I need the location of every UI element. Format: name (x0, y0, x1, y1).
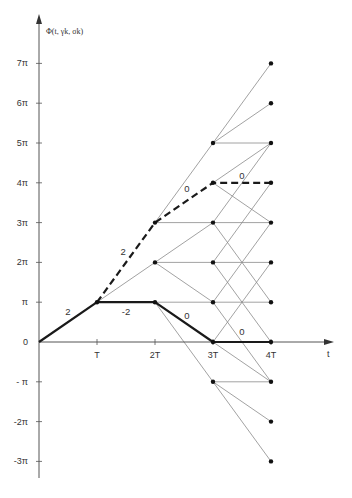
edge-weight-label: -2 (122, 306, 130, 317)
x-axis-title: t (327, 349, 330, 359)
trellis-node (211, 380, 215, 384)
trellis-node (269, 380, 273, 384)
trellis-node (211, 340, 215, 344)
trellis-edge (213, 382, 271, 462)
y-tick-label: 3π (17, 218, 28, 228)
trellis-node (211, 141, 215, 145)
y-tick-label: 6π (17, 98, 28, 108)
trellis-edge (155, 223, 213, 263)
y-tick-label: 7π (17, 58, 28, 68)
trellis-node (211, 220, 215, 224)
y-axis-arrow-icon (36, 14, 42, 24)
trellis-node (269, 260, 273, 264)
trellis-node (269, 141, 273, 145)
y-axis-title: Φ(t, γk, σk) (46, 27, 84, 36)
trellis-edge (155, 262, 213, 302)
trellis-edge (213, 183, 271, 223)
edge-labels: 2-200200 (65, 170, 244, 337)
y-tick-label: 2π (17, 257, 28, 267)
trellis-edge (213, 342, 271, 382)
x-axis-arrow-icon (324, 339, 334, 345)
x-tick-label: 2T (150, 350, 161, 360)
phase-trellis-diagram: Φ(t, γk, σk) t 7π6π5π4π3π2ππ0- π-2π-3π T… (0, 0, 352, 498)
trellis-node (153, 260, 157, 264)
y-tick-label: -3π (14, 456, 28, 466)
y-tick-label: -2π (14, 417, 28, 427)
trellis-svg: Φ(t, γk, σk) t 7π6π5π4π3π2ππ0- π-2π-3π T… (0, 0, 352, 498)
trellis-node (269, 220, 273, 224)
y-tick-label: 0 (23, 337, 28, 347)
edge-weight-label: 2 (120, 246, 125, 257)
thin-edges (97, 63, 271, 461)
x-tick-label: 3T (208, 350, 219, 360)
y-tick-label: π (22, 297, 28, 307)
trellis-node (269, 101, 273, 105)
x-tick-label: T (94, 350, 100, 360)
trellis-node (153, 220, 157, 224)
y-tick-label: 4π (17, 178, 28, 188)
trellis-node (269, 61, 273, 65)
trellis-edge (213, 63, 271, 143)
edge-weight-label: 0 (184, 183, 189, 194)
trellis-node (269, 340, 273, 344)
trellis-edge (213, 382, 271, 422)
solid-phase-path (39, 302, 271, 342)
y-tick-label: 5π (17, 138, 28, 148)
trellis-node (153, 300, 157, 304)
trellis-node (95, 300, 99, 304)
y-ticks: 7π6π5π4π3π2ππ0- π-2π-3π (14, 58, 42, 466)
trellis-node (269, 181, 273, 185)
solid-path (39, 302, 271, 342)
trellis-edge (97, 262, 155, 302)
x-tick-label: 4T (266, 350, 277, 360)
trellis-node (211, 300, 215, 304)
edge-weight-label: 0 (239, 170, 244, 181)
axes: Φ(t, γk, σk) t (36, 14, 334, 478)
trellis-node (269, 419, 273, 423)
edge-weight-label: 0 (184, 310, 189, 321)
y-tick-label: - π (16, 377, 28, 387)
trellis-edge (213, 103, 271, 143)
edge-weight-label: 2 (65, 306, 70, 317)
trellis-node (211, 260, 215, 264)
trellis-node (269, 300, 273, 304)
trellis-node (269, 459, 273, 463)
edge-weight-label: 0 (239, 326, 244, 337)
trellis-node (211, 181, 215, 185)
